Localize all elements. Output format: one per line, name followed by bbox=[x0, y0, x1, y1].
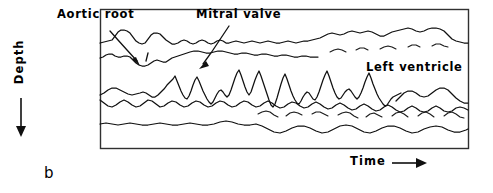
trace-septum-dashed-segments-right bbox=[408, 45, 420, 47]
annotation-aortic-root: Aortic root bbox=[57, 9, 134, 21]
y-axis-label-depth: Depth bbox=[14, 39, 26, 84]
x-axis-label-time: Time bbox=[350, 156, 386, 168]
trace-septum-dashed-segments-right bbox=[330, 49, 346, 52]
trace-anterior-chest-wall-and-aortic-root-upper bbox=[100, 28, 468, 44]
trace-aortic-root-lower-wall bbox=[100, 51, 318, 66]
trace-posterior-wall-baseline-trace bbox=[100, 121, 468, 133]
aortic-root-leader-2 bbox=[146, 53, 148, 61]
trace-septum-dashed-segments-right bbox=[356, 48, 368, 50]
echocardiogram-plot bbox=[0, 0, 493, 193]
trace-pericardium-dashed-mid-right bbox=[392, 112, 408, 117]
plot-frame bbox=[101, 10, 469, 149]
panel-letter: b bbox=[44, 166, 54, 181]
annotation-mitral-valve: Mitral valve bbox=[196, 9, 281, 21]
echocardiogram-figure: Aortic root Mitral valve Left ventricle … bbox=[0, 0, 493, 193]
trace-septum-dashed-segments-right bbox=[432, 44, 448, 47]
trace-group bbox=[100, 28, 468, 133]
mitral-valve-leader bbox=[203, 26, 229, 64]
annotation-left-ventricle: Left ventricle bbox=[366, 62, 463, 74]
trace-pericardium-dashed-mid-right bbox=[444, 112, 464, 118]
aortic-root-arrowhead bbox=[132, 57, 140, 66]
trace-pericardium-dashed-mid-right bbox=[286, 112, 302, 116]
trace-posterior-ventricular-wall-right bbox=[396, 88, 468, 103]
trace-septum-dashed-segments-right bbox=[380, 46, 396, 49]
trace-endocardium-scalloped-band bbox=[100, 100, 468, 112]
annotation-leaders bbox=[110, 26, 229, 69]
trace-pericardium-dashed-mid-right bbox=[312, 112, 328, 116]
trace-pericardium-dashed-mid-right bbox=[366, 113, 382, 117]
time-axis-arrow bbox=[392, 158, 427, 168]
trace-pericardium-dashed-mid-right bbox=[418, 112, 434, 117]
depth-axis-arrow bbox=[16, 98, 26, 137]
trace-pericardium-dashed-mid-right bbox=[258, 111, 278, 117]
trace-pericardium-dashed-mid-right bbox=[338, 112, 358, 118]
